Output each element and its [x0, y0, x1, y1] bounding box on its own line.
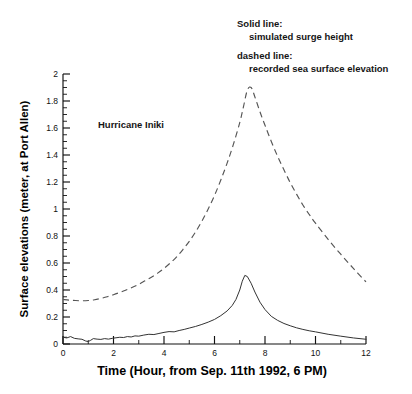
x-tick-label: 6	[212, 348, 217, 358]
y-tick-label: 1.2	[46, 177, 58, 187]
x-axis-ticks	[63, 336, 366, 344]
legend-solid-title: Solid line:	[237, 18, 282, 29]
y-tick-label: 2	[53, 69, 58, 79]
y-axis-tick-labels: 00.20.40.60.811.21.41.61.82	[46, 69, 58, 349]
y-tick-label: 0.2	[46, 312, 58, 322]
surge-elevation-chart: 00.20.40.60.811.21.41.61.82 024681012 Su…	[0, 0, 412, 394]
hurricane-annotation: Hurricane Iniki	[98, 119, 164, 130]
x-axis-title: Time (Hour, from Sep. 11th 1992, 6 PM)	[97, 364, 327, 378]
legend-solid-description: simulated surge height	[249, 31, 354, 42]
y-tick-label: 0	[53, 339, 58, 349]
x-tick-label: 10	[311, 348, 321, 358]
y-tick-label: 0.8	[46, 231, 58, 241]
x-tick-label: 2	[111, 348, 116, 358]
y-tick-label: 1	[53, 204, 58, 214]
y-tick-label: 1.8	[46, 96, 58, 106]
y-tick-label: 0.6	[46, 258, 58, 268]
legend-dashed-description: recorded sea surface elevation	[249, 63, 389, 74]
x-tick-label: 4	[162, 348, 167, 358]
chart-svg: 00.20.40.60.811.21.41.61.82 024681012 Su…	[0, 0, 412, 394]
y-axis-title: Surface elevations (meter, at Port Allen…	[18, 100, 30, 317]
y-tick-label: 1.4	[46, 150, 58, 160]
legend-dashed-title: dashed line:	[237, 50, 292, 61]
x-axis-tick-labels: 024681012	[61, 348, 371, 358]
y-tick-label: 1.6	[46, 123, 58, 133]
x-tick-label: 0	[61, 348, 66, 358]
x-tick-label: 12	[361, 348, 371, 358]
y-tick-label: 0.4	[46, 285, 58, 295]
y-axis-ticks	[63, 74, 70, 344]
simulated-surge-height-line	[63, 275, 366, 341]
x-tick-label: 8	[263, 348, 268, 358]
